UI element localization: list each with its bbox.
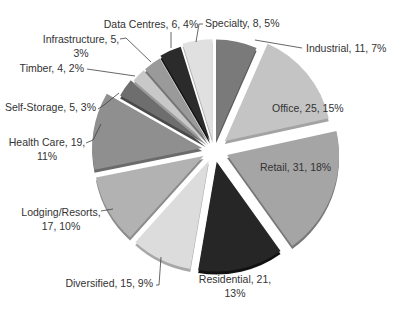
data-label-retail: Retail, 31, 18% bbox=[260, 161, 331, 173]
leader-line bbox=[87, 69, 135, 76]
data-label-infrastructure: Infrastructure, 5,3% bbox=[43, 33, 119, 59]
leader-line bbox=[255, 40, 302, 48]
data-label-residential: Residential, 21,13% bbox=[199, 273, 271, 299]
data-label-health-care: Health Care, 19,11% bbox=[9, 136, 85, 162]
data-label-industrial: Industrial, 11, 7% bbox=[306, 42, 386, 54]
data-label-self-storage: Self-Storage, 5, 3% bbox=[5, 101, 96, 113]
data-label-office: Office, 25, 15% bbox=[272, 102, 344, 114]
data-label-data-centres: Data Centres, 6, 4% bbox=[104, 18, 199, 30]
data-label-specialty: Specialty, 8, 5% bbox=[205, 17, 280, 29]
data-label-timber: Timber, 4, 2% bbox=[20, 62, 84, 74]
data-label-diversified: Diversified, 15, 9% bbox=[65, 277, 153, 289]
exploded-pie-chart: Industrial, 11, 7%Office, 25, 15%Retail,… bbox=[0, 0, 400, 311]
data-label-lodging-resorts: Lodging/Resorts,17, 10% bbox=[21, 206, 100, 232]
leader-line bbox=[120, 38, 151, 62]
pie-slices bbox=[92, 39, 339, 274]
